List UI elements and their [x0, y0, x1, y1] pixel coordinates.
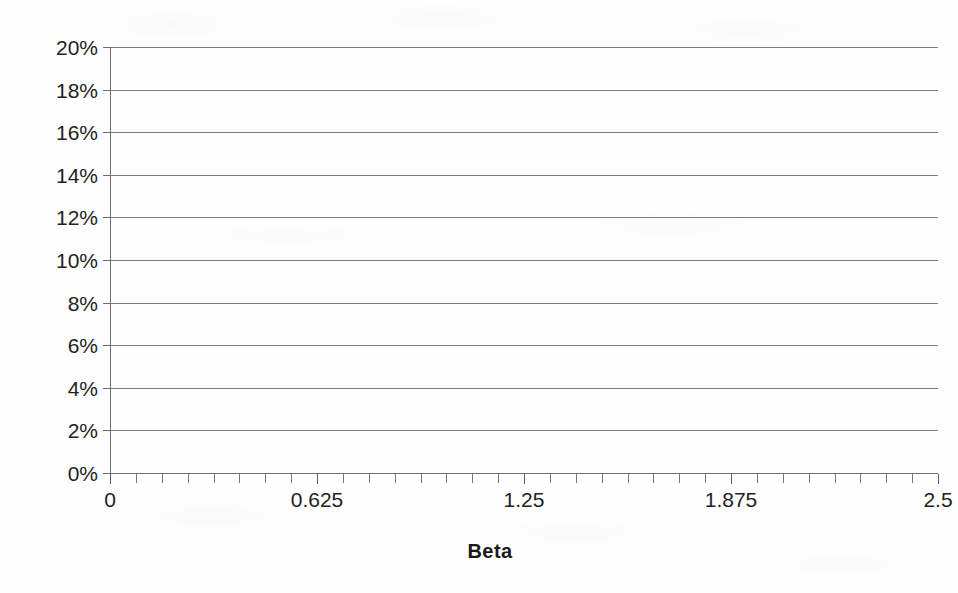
chart-container: 20%18%16%14%12%10%8%6%4%2%0% 00.6251.251… — [0, 0, 958, 593]
x-axis-minor-tick — [912, 474, 913, 483]
x-axis-tick-label: 1.25 — [504, 489, 545, 510]
x-axis-minor-tick — [395, 474, 396, 483]
y-axis-ticks — [110, 47, 111, 473]
y-axis-tick — [103, 132, 110, 133]
y-axis-tick — [103, 175, 110, 176]
x-axis-title-text: Beta — [468, 540, 513, 562]
x-axis-minor-tick — [343, 474, 344, 483]
y-axis-tick-label: 6% — [26, 335, 98, 356]
y-axis-tick-label: 0% — [26, 463, 98, 484]
y-axis-tick — [103, 430, 110, 431]
gridline — [110, 345, 938, 346]
x-axis-title: Beta — [0, 540, 958, 563]
x-axis-minor-tick — [809, 474, 810, 483]
x-axis-minor-tick — [705, 474, 706, 483]
gridline — [110, 90, 938, 91]
x-axis-minor-tick — [265, 474, 266, 483]
y-axis-tick — [103, 47, 110, 48]
x-axis-minor-tick — [628, 474, 629, 483]
x-axis-minor-tick — [291, 474, 292, 483]
y-axis-tick-label: 8% — [26, 292, 98, 313]
x-axis-major-tick — [938, 474, 939, 484]
x-axis-minor-tick — [188, 474, 189, 483]
plot-area — [110, 47, 938, 473]
y-axis-tick-label: 10% — [26, 250, 98, 271]
x-axis-minor-tick — [757, 474, 758, 483]
gridline — [110, 303, 938, 304]
gridline — [110, 388, 938, 389]
gridline — [110, 260, 938, 261]
gridline — [110, 132, 938, 133]
gridline — [110, 217, 938, 218]
gridline — [110, 175, 938, 176]
x-axis-minor-tick — [446, 474, 447, 483]
y-axis-tick — [103, 388, 110, 389]
y-axis-tick-label: 20% — [26, 37, 98, 58]
x-axis-minor-tick — [550, 474, 551, 483]
y-axis-labels: 20%18%16%14%12%10%8%6%4%2%0% — [18, 47, 98, 473]
y-axis-tick — [103, 345, 110, 346]
x-axis-minor-tick — [136, 474, 137, 483]
x-axis-minor-tick — [679, 474, 680, 483]
y-axis-tick — [103, 303, 110, 304]
x-axis-minor-tick — [472, 474, 473, 483]
y-axis-tick — [103, 90, 110, 91]
x-axis-major-tick — [110, 474, 111, 484]
x-axis-minor-tick — [886, 474, 887, 483]
x-axis-tick-label: 1.875 — [705, 489, 758, 510]
x-axis-major-tick — [731, 474, 732, 484]
x-axis-minor-tick — [783, 474, 784, 483]
y-axis-tick-label: 18% — [26, 79, 98, 100]
x-axis-minor-tick — [835, 474, 836, 483]
x-axis-minor-tick — [860, 474, 861, 483]
y-axis-tick-label: 4% — [26, 377, 98, 398]
x-axis-minor-tick — [498, 474, 499, 483]
x-axis-tick-label: 0 — [104, 489, 116, 510]
x-axis-minor-tick — [239, 474, 240, 483]
x-axis-minor-tick — [653, 474, 654, 483]
x-axis-labels: 00.6251.251.8752.5 — [110, 489, 938, 521]
x-axis-tick-label: 0.625 — [291, 489, 344, 510]
gridline — [110, 47, 938, 48]
x-axis-ticks — [110, 474, 938, 484]
x-axis-minor-tick — [214, 474, 215, 483]
y-axis-tick — [103, 473, 110, 474]
y-axis-tick-label: 2% — [26, 420, 98, 441]
x-axis-tick-label: 2.5 — [923, 489, 952, 510]
x-axis-minor-tick — [421, 474, 422, 483]
x-axis-minor-tick — [162, 474, 163, 483]
x-axis-minor-tick — [369, 474, 370, 483]
x-axis-minor-tick — [602, 474, 603, 483]
x-axis-major-tick — [524, 474, 525, 484]
y-axis-tick-label: 12% — [26, 207, 98, 228]
y-axis-tick-label: 14% — [26, 164, 98, 185]
x-axis-major-tick — [317, 474, 318, 484]
gridline — [110, 430, 938, 431]
y-axis-tick — [103, 217, 110, 218]
y-axis-tick — [103, 260, 110, 261]
y-axis-tick-label: 16% — [26, 122, 98, 143]
x-axis-minor-tick — [576, 474, 577, 483]
